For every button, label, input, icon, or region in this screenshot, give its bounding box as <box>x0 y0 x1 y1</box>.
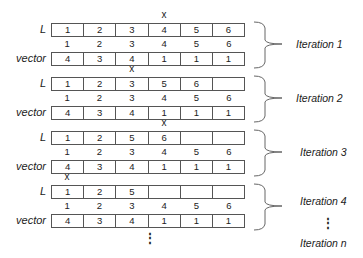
iteration-block: xL1256123456vector434111Iteration 3 <box>0 108 363 162</box>
list-cell: 6 <box>213 24 244 36</box>
iteration-label: Iteration 4 <box>300 195 347 207</box>
iteration-label-final: Iteration n <box>300 237 347 249</box>
list-cell <box>149 186 181 198</box>
pointer-marker: x <box>51 171 83 182</box>
index-row: 123456 <box>51 92 245 103</box>
list-label: L <box>0 131 46 143</box>
index-label: 3 <box>116 38 148 49</box>
index-label: 2 <box>83 92 115 103</box>
vector-cell: 3 <box>84 215 116 227</box>
index-label: 5 <box>180 146 212 157</box>
index-label: 5 <box>180 92 212 103</box>
vector-label: vector <box>0 214 46 226</box>
list-cell: 2 <box>84 24 116 36</box>
iteration-label: Iteration 2 <box>296 92 343 104</box>
iteration-block: xL123456123456vector434111Iteration 1 <box>0 0 363 54</box>
list-cell: 6 <box>149 132 181 144</box>
index-label: 6 <box>213 146 245 157</box>
index-label: 5 <box>180 200 212 211</box>
index-label: 1 <box>51 200 83 211</box>
index-label: 2 <box>83 38 115 49</box>
vector-row: 434111 <box>51 214 245 228</box>
continuation-dots: ⋮ <box>322 221 332 225</box>
index-label: 4 <box>148 200 180 211</box>
list-cell: 4 <box>149 24 181 36</box>
list-label: L <box>0 77 46 89</box>
iteration-label: Iteration 1 <box>296 38 343 50</box>
pointer-marker: x <box>148 117 180 128</box>
list-cell: 1 <box>52 132 84 144</box>
list-cell: 1 <box>52 186 84 198</box>
list-cell: 3 <box>116 24 148 36</box>
list-label: L <box>0 185 46 197</box>
curly-brace-icon <box>252 182 292 232</box>
list-row: 1256 <box>51 131 245 145</box>
continuation-dots: ⋮ <box>144 236 154 240</box>
index-label: 6 <box>213 200 245 211</box>
vector-cell: 1 <box>213 215 244 227</box>
list-cell: 5 <box>181 24 213 36</box>
index-label: 1 <box>51 146 83 157</box>
list-cell: 2 <box>84 78 116 90</box>
index-row: 123456 <box>51 200 245 211</box>
list-cell: 5 <box>116 132 148 144</box>
list-cell: 2 <box>84 186 116 198</box>
list-cell <box>213 186 244 198</box>
list-cell: 1 <box>52 78 84 90</box>
iteration-label: Iteration 3 <box>300 146 347 158</box>
iteration-block: xL12356123456vector434111Iteration 2 <box>0 54 363 108</box>
index-row: 123456 <box>51 146 245 157</box>
index-label: 3 <box>116 146 148 157</box>
vector-cell: 1 <box>181 215 213 227</box>
vector-cell: 4 <box>116 215 148 227</box>
index-row: 123456 <box>51 38 245 49</box>
index-label: 6 <box>213 92 245 103</box>
index-label: 2 <box>83 200 115 211</box>
list-cell <box>213 132 244 144</box>
list-cell: 1 <box>52 24 84 36</box>
iteration-block: xL125123456vector434111Iteration 4 <box>0 162 363 216</box>
list-cell <box>213 78 244 90</box>
list-row: 12356 <box>51 77 245 91</box>
index-label: 1 <box>51 38 83 49</box>
vector-cell: 4 <box>52 215 84 227</box>
index-label: 6 <box>213 38 245 49</box>
list-cell: 5 <box>149 78 181 90</box>
list-cell <box>181 186 213 198</box>
index-label: 4 <box>148 38 180 49</box>
index-label: 3 <box>116 200 148 211</box>
index-label: 4 <box>148 92 180 103</box>
list-cell: 6 <box>181 78 213 90</box>
vector-cell: 1 <box>149 215 181 227</box>
list-label: L <box>0 23 46 35</box>
index-label: 1 <box>51 92 83 103</box>
list-cell: 3 <box>116 78 148 90</box>
list-cell <box>181 132 213 144</box>
index-label: 4 <box>148 146 180 157</box>
list-row: 125 <box>51 185 245 199</box>
list-cell: 5 <box>116 186 148 198</box>
index-label: 2 <box>83 146 115 157</box>
list-row: 123456 <box>51 23 245 37</box>
index-label: 5 <box>180 38 212 49</box>
list-cell: 2 <box>84 132 116 144</box>
pointer-marker: x <box>116 63 148 74</box>
index-label: 3 <box>116 92 148 103</box>
pointer-marker: x <box>148 9 180 20</box>
